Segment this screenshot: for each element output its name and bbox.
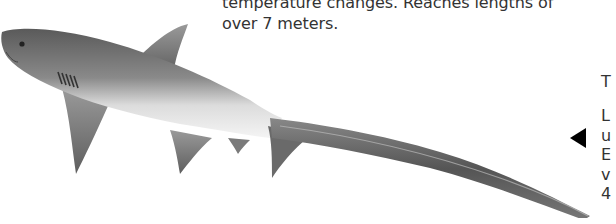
adjacent-panel-title: T xyxy=(601,72,611,92)
thresher-shark-illustration xyxy=(0,18,600,218)
adjacent-line-1: L xyxy=(601,106,611,126)
adjacent-line-3: E xyxy=(601,145,611,165)
adjacent-line-4: v xyxy=(601,165,611,185)
adjacent-line-2: u xyxy=(601,126,611,146)
description-line-1: temperature changes. Reaches lengths of xyxy=(222,0,562,13)
adjacent-panel-body: L u E v 4 xyxy=(601,106,611,204)
left-triangle-icon[interactable] xyxy=(570,128,586,148)
adjacent-line-5: 4 xyxy=(601,184,611,204)
